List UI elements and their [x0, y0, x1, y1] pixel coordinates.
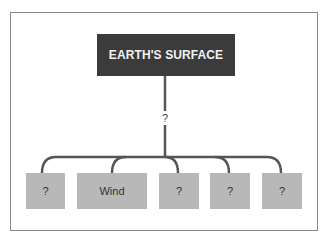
- child-node-label: Wind: [99, 185, 124, 197]
- root-node-earths-surface: EARTH'S SURFACE: [97, 34, 235, 76]
- branch-curve-5: [267, 157, 281, 173]
- child-node-5: ?: [262, 173, 302, 209]
- child-node-wind: Wind: [77, 173, 147, 209]
- child-node-1: ?: [26, 173, 65, 209]
- child-node-label: ?: [227, 185, 233, 197]
- branch-curve-1: [42, 157, 56, 173]
- root-node-label: EARTH'S SURFACE: [109, 48, 223, 62]
- child-node-label: ?: [42, 185, 48, 197]
- child-node-4: ?: [210, 173, 250, 209]
- branch-curve-4: [215, 157, 229, 173]
- child-node-label: ?: [176, 185, 182, 197]
- child-node-3: ?: [159, 173, 199, 209]
- branch-curve-3: [165, 157, 178, 173]
- connector-label: ?: [159, 111, 171, 125]
- child-node-label: ?: [279, 185, 285, 197]
- branch-curve-2: [112, 157, 126, 173]
